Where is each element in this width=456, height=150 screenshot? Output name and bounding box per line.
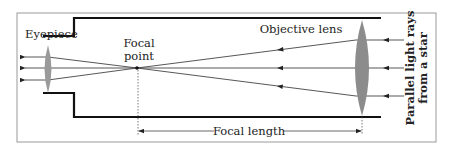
ray-arrow-middle-inner (277, 66, 283, 70)
parallel-rays-label-line2: from a star (416, 31, 430, 104)
ray-arrow-bottom-inner (277, 85, 283, 89)
ray-arrow-bottom-in (383, 94, 389, 98)
eyepiece-lens-icon (45, 45, 52, 93)
telescope-diagram: Eyepiece Focal point Objective lens Foca… (0, 0, 456, 150)
ray-top-after-focus (48, 68, 137, 80)
objective-lens-icon (355, 20, 369, 116)
focal-point-label-line2: point (124, 49, 154, 63)
ray-arrow-top-inner (277, 47, 284, 51)
tube-bottom-outline (43, 93, 381, 117)
eyepiece-label: Eyepiece (25, 27, 78, 41)
ray-top-to-focus (137, 40, 356, 68)
focal-point-label-line1: Focal (123, 36, 155, 50)
diagram-frame (17, 13, 436, 142)
objective-lens-label: Objective lens (260, 22, 343, 36)
ray-arrow-middle-in (383, 66, 389, 70)
focal-point-marker (135, 66, 139, 70)
ray-arrow-top-in (383, 38, 389, 42)
focal-length-label: Focal length (213, 124, 286, 138)
parallel-rays-label-line1: Parallel light rays (403, 11, 417, 126)
ray-bottom-to-focus (137, 68, 356, 96)
